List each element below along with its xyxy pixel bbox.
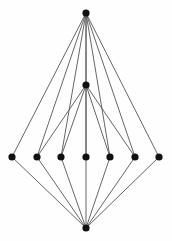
graph-edge [12,157,86,228]
graph-node [82,153,89,160]
graph-node [131,153,138,160]
graph-edge [61,13,86,157]
edge-layer [12,13,159,228]
graph-edge [86,85,110,157]
graph-node [33,153,40,160]
graph-edge [86,13,135,157]
graph-edge [61,157,86,228]
graph-canvas [0,0,172,241]
graph-node [82,9,89,16]
graph-edge [37,85,86,157]
graph-node [57,153,64,160]
graph-node [155,153,162,160]
graph-edge [12,13,86,157]
graph-node [82,224,89,231]
graph-edge [86,157,110,228]
graph-edge [86,157,135,228]
graph-node [82,81,89,88]
node-layer [8,9,162,231]
graph-edge [37,157,86,228]
graph-figure [0,0,172,241]
graph-edge [86,157,159,228]
graph-edge [61,85,86,157]
graph-node [8,153,15,160]
graph-edge [86,13,159,157]
graph-edge [37,13,86,157]
graph-node [106,153,113,160]
